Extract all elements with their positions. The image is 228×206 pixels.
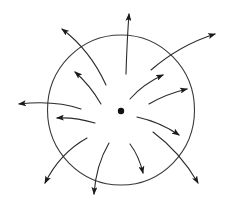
center-point-charge — [118, 108, 124, 114]
arrow-bottom-center — [130, 144, 143, 173]
arrow-top — [126, 14, 129, 74]
arrow-lower-right-1 — [137, 117, 179, 135]
field-arrows — [19, 14, 215, 194]
arrow-lower-right-long — [153, 132, 198, 183]
arrow-bottom-long — [94, 143, 109, 194]
arrow-upper-right-2 — [149, 89, 187, 104]
arrow-upper-right-1 — [130, 75, 163, 99]
arrow-left-long — [19, 103, 81, 109]
arrow-upper-left-short — [75, 72, 101, 104]
arrow-left-short — [57, 118, 95, 123]
arrow-upper-right-long — [151, 34, 215, 70]
radial-field-diagram — [0, 0, 228, 206]
